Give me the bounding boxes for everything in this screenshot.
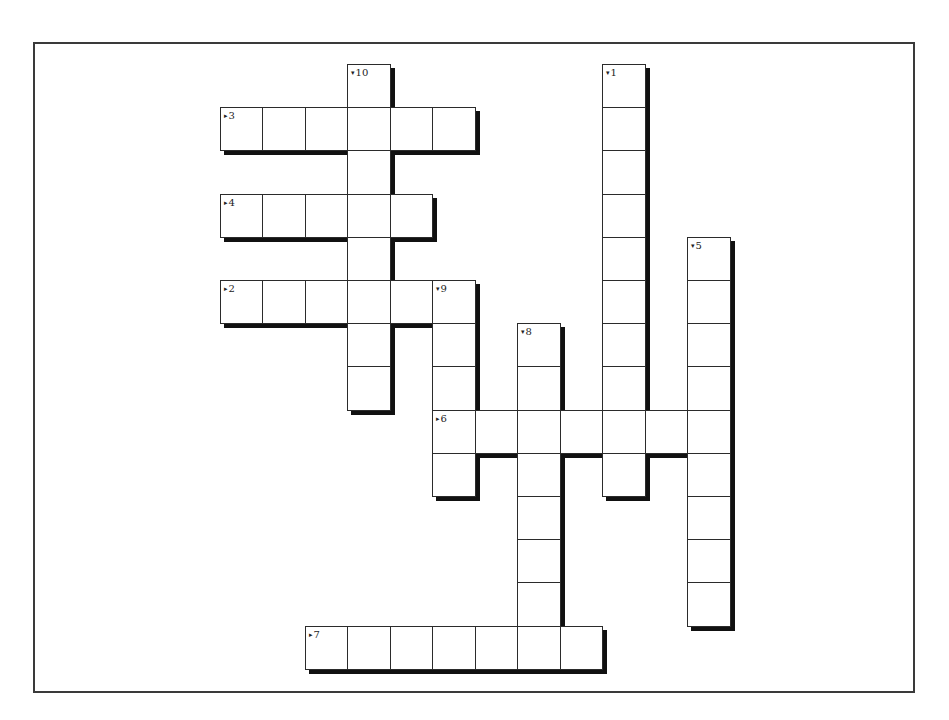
- crossword-cell-r5-c1[interactable]: [262, 280, 306, 324]
- clue-number: 4: [229, 197, 235, 208]
- clue-number-label: ▾9: [436, 283, 447, 295]
- crossword-cell-r8-c6[interactable]: [475, 410, 518, 454]
- crossword-cell-r13-c6[interactable]: [475, 626, 518, 670]
- crossword-cell-r7-c9[interactable]: [602, 366, 646, 411]
- crossword-cell-r10-c11[interactable]: [687, 496, 731, 540]
- crossword-cell-r3-c3[interactable]: [347, 194, 391, 238]
- crossword-cell-r8-c5[interactable]: ▸6: [432, 410, 476, 454]
- crossword-cell-r5-c9[interactable]: [602, 280, 646, 324]
- clue-number-label: ▾10: [351, 67, 368, 79]
- crossword-cell-r11-c7[interactable]: [517, 539, 561, 583]
- crossword-cell-r2-c3[interactable]: [347, 150, 391, 195]
- clue-number: 10: [356, 67, 369, 78]
- clue-number: 8: [526, 326, 532, 337]
- crossword-cell-r13-c7[interactable]: [517, 626, 561, 670]
- clue-number: 6: [441, 413, 447, 424]
- crossword-cell-r7-c5[interactable]: [432, 366, 476, 411]
- across-arrow-icon: ▸: [224, 112, 228, 120]
- clue-number-label: ▾8: [521, 326, 532, 338]
- crossword-cell-r2-c9[interactable]: [602, 150, 646, 195]
- crossword-cell-r6-c3[interactable]: [347, 323, 391, 367]
- crossword-cell-r5-c3[interactable]: [347, 280, 391, 324]
- down-arrow-icon: ▾: [691, 242, 695, 250]
- clue-number: 7: [314, 629, 320, 640]
- crossword-cell-r13-c3[interactable]: [347, 626, 391, 670]
- crossword-cell-r5-c2[interactable]: [305, 280, 348, 324]
- crossword-cell-r6-c5[interactable]: [432, 323, 476, 367]
- crossword-cell-r4-c3[interactable]: [347, 237, 391, 281]
- crossword-cell-r8-c8[interactable]: [560, 410, 603, 454]
- crossword-cell-r13-c4[interactable]: [390, 626, 433, 670]
- crossword-cell-r8-c11[interactable]: [687, 410, 731, 454]
- crossword-cell-r1-c5[interactable]: [432, 107, 476, 151]
- clue-number-label: ▾1: [606, 67, 617, 79]
- clue-number: 1: [611, 67, 617, 78]
- crossword-cell-r9-c9[interactable]: [602, 453, 646, 497]
- crossword-cell-r8-c7[interactable]: [517, 410, 561, 454]
- clue-number: 2: [229, 283, 235, 294]
- crossword-cell-r3-c2[interactable]: [305, 194, 348, 238]
- crossword-cell-r10-c7[interactable]: [517, 496, 561, 540]
- crossword-cell-r7-c11[interactable]: [687, 366, 731, 411]
- crossword-cell-r9-c7[interactable]: [517, 453, 561, 497]
- crossword-cell-r5-c0[interactable]: ▸2: [220, 280, 263, 324]
- crossword-cell-r12-c11[interactable]: [687, 582, 731, 627]
- crossword-cell-r6-c7[interactable]: ▾8: [517, 323, 561, 367]
- clue-number: 3: [229, 110, 235, 121]
- clue-number: 9: [441, 283, 447, 294]
- crossword-cell-r8-c9[interactable]: [602, 410, 646, 454]
- crossword-cell-r12-c7[interactable]: [517, 582, 561, 627]
- down-arrow-icon: ▾: [351, 69, 355, 77]
- crossword-cell-r5-c11[interactable]: [687, 280, 731, 324]
- crossword-cell-r8-c10[interactable]: [645, 410, 688, 454]
- clue-number-label: ▾5: [691, 240, 702, 252]
- crossword-cell-r1-c1[interactable]: [262, 107, 306, 151]
- down-arrow-icon: ▾: [606, 69, 610, 77]
- crossword-cell-r1-c3[interactable]: [347, 107, 391, 151]
- crossword-cell-r3-c0[interactable]: ▸4: [220, 194, 263, 238]
- across-arrow-icon: ▸: [309, 631, 313, 639]
- crossword-cell-r9-c5[interactable]: [432, 453, 476, 497]
- across-arrow-icon: ▸: [436, 415, 440, 423]
- down-arrow-icon: ▾: [521, 328, 525, 336]
- crossword-cell-r4-c11[interactable]: ▾5: [687, 237, 731, 281]
- across-arrow-icon: ▸: [224, 199, 228, 207]
- down-arrow-icon: ▾: [436, 285, 440, 293]
- crossword-cell-r3-c1[interactable]: [262, 194, 306, 238]
- crossword-cell-r6-c11[interactable]: [687, 323, 731, 367]
- crossword-cell-r0-c3[interactable]: ▾10: [347, 64, 391, 108]
- crossword-cell-r1-c4[interactable]: [390, 107, 433, 151]
- crossword-cell-r13-c5[interactable]: [432, 626, 476, 670]
- crossword-cell-r7-c3[interactable]: [347, 366, 391, 411]
- crossword-cell-r13-c8[interactable]: [560, 626, 603, 670]
- crossword-cell-r5-c4[interactable]: [390, 280, 433, 324]
- crossword-cell-r1-c9[interactable]: [602, 107, 646, 151]
- crossword-grid: ▾1▸2▾9▸3▸4▾5▸6▸7▾8▾10: [0, 0, 949, 720]
- crossword-cell-r0-c9[interactable]: ▾1: [602, 64, 646, 108]
- clue-number-label: ▸6: [436, 413, 447, 425]
- crossword-cell-r13-c2[interactable]: ▸7: [305, 626, 348, 670]
- clue-number-label: ▸4: [224, 197, 235, 209]
- crossword-cell-r1-c0[interactable]: ▸3: [220, 107, 263, 151]
- crossword-cell-r4-c9[interactable]: [602, 237, 646, 281]
- clue-number: 5: [696, 240, 702, 251]
- across-arrow-icon: ▸: [224, 285, 228, 293]
- crossword-cell-r9-c11[interactable]: [687, 453, 731, 497]
- clue-number-label: ▸2: [224, 283, 235, 295]
- crossword-cell-r7-c7[interactable]: [517, 366, 561, 411]
- clue-number-label: ▸7: [309, 629, 320, 641]
- crossword-cell-r11-c11[interactable]: [687, 539, 731, 583]
- crossword-cell-r3-c9[interactable]: [602, 194, 646, 238]
- clue-number-label: ▸3: [224, 110, 235, 122]
- crossword-cell-r1-c2[interactable]: [305, 107, 348, 151]
- crossword-cell-r3-c4[interactable]: [390, 194, 433, 238]
- crossword-cell-r5-c5[interactable]: ▾9: [432, 280, 476, 324]
- crossword-cell-r6-c9[interactable]: [602, 323, 646, 367]
